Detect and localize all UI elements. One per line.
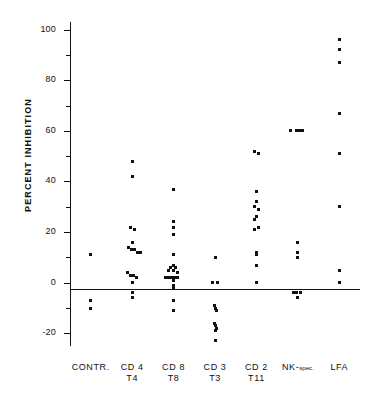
data-point	[172, 253, 175, 256]
data-point	[299, 291, 302, 294]
data-point	[216, 281, 219, 284]
data-point	[253, 205, 256, 208]
data-point	[131, 291, 134, 294]
data-point	[131, 281, 134, 284]
data-point	[176, 271, 179, 274]
data-point	[253, 228, 256, 231]
data-point	[295, 291, 298, 294]
data-point	[167, 269, 170, 272]
data-point	[139, 251, 142, 254]
figure-caption	[4, 395, 376, 404]
data-point	[255, 264, 258, 267]
data-point	[255, 253, 258, 256]
data-point	[89, 307, 92, 310]
data-point	[338, 48, 341, 51]
y-tick-label: -20	[22, 328, 56, 337]
data-point	[133, 228, 136, 231]
data-point	[172, 309, 175, 312]
data-point	[131, 241, 134, 244]
y-tick-label: 80	[22, 75, 56, 84]
data-point	[257, 208, 260, 211]
data-point	[257, 226, 260, 229]
scatter-chart: PERCENT INHIBITION -20020406080100 CONTR…	[0, 0, 380, 404]
data-point	[172, 220, 175, 223]
data-point	[214, 256, 217, 259]
data-point	[338, 61, 341, 64]
data-point	[289, 129, 292, 132]
data-point	[89, 299, 92, 302]
data-point	[253, 150, 256, 153]
data-point	[296, 241, 299, 244]
y-tick-label: 60	[22, 126, 56, 135]
data-point	[255, 190, 258, 193]
y-tick-label: 40	[22, 176, 56, 185]
data-point	[215, 309, 218, 312]
data-point	[301, 129, 304, 132]
data-point	[338, 269, 341, 272]
data-point	[296, 256, 299, 259]
data-point	[131, 296, 134, 299]
data-point	[172, 299, 175, 302]
data-point	[176, 276, 179, 279]
data-point	[172, 226, 175, 229]
data-point	[296, 251, 299, 254]
data-point	[131, 175, 134, 178]
data-point	[172, 269, 175, 272]
data-points-layer	[70, 22, 360, 346]
data-point	[172, 279, 175, 282]
data-point	[296, 296, 299, 299]
y-tick-label: 100	[22, 25, 56, 34]
data-point	[338, 112, 341, 115]
data-point	[89, 253, 92, 256]
data-point	[211, 281, 214, 284]
x-category-label: LFA	[307, 362, 371, 373]
data-point	[255, 200, 258, 203]
data-point	[338, 152, 341, 155]
data-point	[131, 160, 134, 163]
y-tick-label: 20	[22, 227, 56, 236]
data-point	[214, 339, 217, 342]
data-point	[255, 281, 258, 284]
data-point	[257, 152, 260, 155]
y-axis-title: PERCENT INHIBITION	[23, 75, 33, 235]
data-point	[338, 281, 341, 284]
data-point	[172, 286, 175, 289]
data-point	[129, 226, 132, 229]
data-point	[172, 188, 175, 191]
y-tick-label: 0	[22, 278, 56, 287]
data-point	[338, 38, 341, 41]
data-point	[214, 329, 217, 332]
data-point	[172, 233, 175, 236]
data-point	[253, 218, 256, 221]
data-point	[135, 276, 138, 279]
data-point	[338, 205, 341, 208]
